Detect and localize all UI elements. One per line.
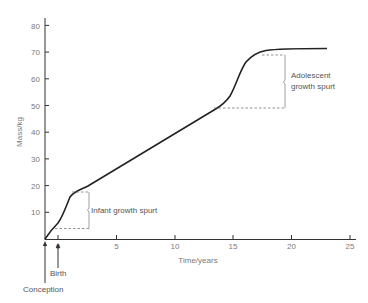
y-tick-label: 40 [31, 128, 40, 137]
y-tick-label: 80 [31, 22, 40, 31]
conception-arrowhead-icon [43, 241, 47, 246]
x-tick-label: 25 [346, 242, 355, 251]
x-tick-label: 20 [287, 242, 296, 251]
y-tick-label: 60 [31, 75, 40, 84]
y-tick-label: 70 [31, 48, 40, 57]
x-ticks: 0 5 10 15 20 25 [56, 235, 355, 251]
x-axis-title: Time/years [178, 256, 217, 265]
y-axis-title: Mass/kg [15, 117, 24, 147]
conception-label: Conception [23, 285, 63, 294]
y-tick-label: 20 [31, 182, 40, 191]
birth-label: Birth [50, 269, 66, 278]
x-tick-label: 10 [171, 242, 180, 251]
infant-growth-label: Infant growth spurt [91, 206, 158, 215]
infant-brace [88, 192, 90, 229]
adolescent-brace [284, 55, 286, 108]
y-tick-label: 30 [31, 155, 40, 164]
y-tick-label: 50 [31, 102, 40, 111]
growth-chart: 10 20 30 40 50 60 70 80 0 5 10 15 20 25 … [0, 0, 368, 303]
y-ticks: 10 20 30 40 50 60 70 80 [31, 22, 49, 218]
y-tick-label: 10 [31, 208, 40, 217]
adolescent-growth-label-1: Adolescent [291, 71, 331, 80]
x-tick-label: 15 [229, 242, 238, 251]
adolescent-growth-label-2: growth spurt [291, 82, 336, 91]
x-tick-label: 5 [114, 242, 119, 251]
